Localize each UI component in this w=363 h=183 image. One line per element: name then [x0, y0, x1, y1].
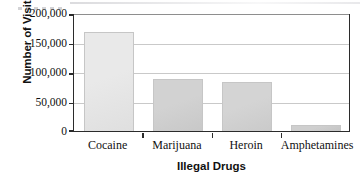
- x-axis-title: Illegal Drugs: [73, 160, 350, 172]
- scan-artifact: [70, 2, 360, 4]
- x-axis-category-label: Heroin: [212, 138, 281, 153]
- bar-chart-figure: Number of Visits 050,000100,000150,00020…: [0, 0, 363, 183]
- x-axis-category-label: Amphetamines: [281, 138, 350, 153]
- y-axis-tick-mark: [69, 73, 74, 75]
- y-axis-tick-label: 150,000: [13, 38, 67, 50]
- bar: [153, 79, 203, 131]
- y-axis-tick-mark: [69, 44, 74, 46]
- y-axis-tick-label: 0: [13, 126, 67, 138]
- y-axis-tick-mark: [69, 130, 74, 132]
- x-axis-category-label: Marijuana: [142, 138, 211, 153]
- plot-area: [73, 14, 350, 132]
- bar: [222, 82, 272, 131]
- x-axis-category-label: Cocaine: [73, 138, 142, 153]
- bar: [291, 125, 341, 131]
- bar-series: [74, 14, 349, 131]
- y-axis-tick-mark: [69, 14, 74, 16]
- y-axis-tick-mark: [69, 103, 74, 105]
- bar: [84, 32, 134, 131]
- y-axis-tick-labels: 050,000100,000150,000200,000: [13, 0, 67, 183]
- y-axis-tick-label: 100,000: [13, 67, 67, 79]
- y-axis-tick-label: 50,000: [13, 97, 67, 109]
- y-axis-tick-label: 200,000: [13, 8, 67, 20]
